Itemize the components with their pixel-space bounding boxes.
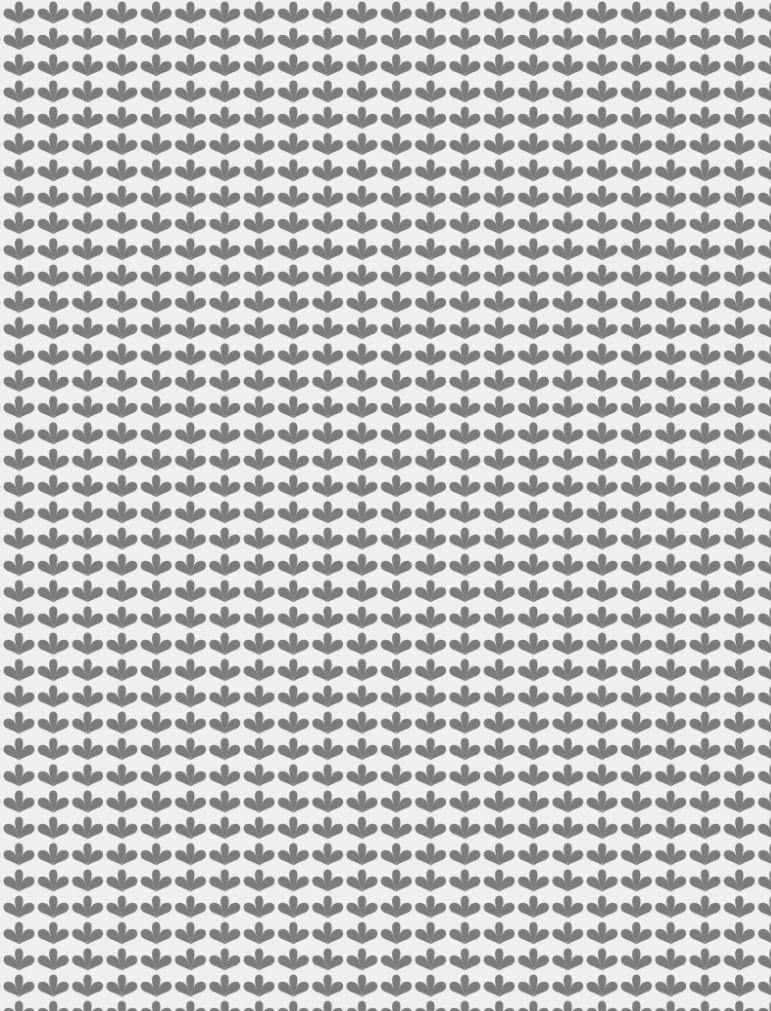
pattern-canvas <box>0 0 771 1011</box>
pattern-svg <box>0 0 771 1011</box>
fan-pattern-fill <box>0 0 771 1011</box>
